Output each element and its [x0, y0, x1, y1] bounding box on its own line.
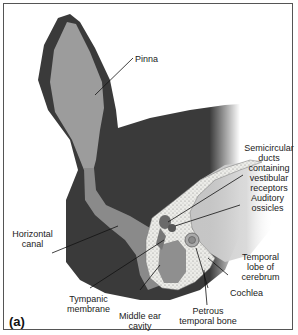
label-line: receptors	[240, 183, 298, 193]
label-line: containing	[240, 163, 298, 173]
panel-label: (a)	[9, 314, 25, 329]
label-auditory-ossicles: Auditory ossicles	[245, 193, 290, 213]
label-line: cavity	[115, 321, 165, 331]
label-cochlea: Cochlea	[230, 288, 263, 298]
label-pinna: Pinna	[135, 54, 158, 64]
label-line: Semicircular	[240, 143, 298, 153]
label-horizontal-canal: Horizontal canal	[10, 229, 55, 249]
label-line: cerebrum	[238, 272, 283, 282]
label-line: Middle ear	[115, 311, 165, 321]
label-line: temporal bone	[178, 316, 238, 326]
label-line: membrane	[66, 304, 111, 314]
label-line: ducts	[240, 153, 298, 163]
label-line: Auditory	[245, 193, 290, 203]
label-tympanic-membrane: Tympanic membrane	[66, 294, 111, 314]
label-line: Horizontal	[10, 229, 55, 239]
label-temporal-lobe: Temporal lobe of cerebrum	[238, 252, 283, 282]
label-line: Petrous	[178, 306, 238, 316]
label-line: Tympanic	[66, 294, 111, 304]
label-line: vestibular	[240, 173, 298, 183]
label-line: ossicles	[245, 203, 290, 213]
label-middle-ear-cavity: Middle ear cavity	[115, 311, 165, 331]
cochlea	[185, 233, 199, 247]
pinna-inner	[50, 22, 104, 175]
label-line: Temporal	[238, 252, 283, 262]
label-petrous-temporal-bone: Petrous temporal bone	[178, 306, 238, 326]
label-line: lobe of	[238, 262, 283, 272]
label-line: canal	[10, 239, 55, 249]
label-semicircular-ducts: Semicircular ducts containing vestibular…	[240, 143, 298, 193]
